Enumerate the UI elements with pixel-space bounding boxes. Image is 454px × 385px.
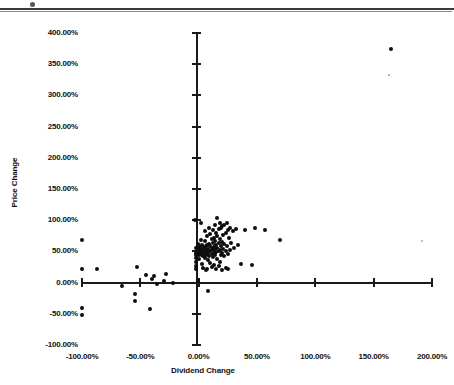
y-tick [192,344,201,346]
x-tick [256,278,258,287]
y-tick-label: 100.00% [48,215,78,224]
x-axis-left-cap [81,278,83,287]
x-axis-title: Dividend Change [0,366,454,375]
scatter-point [226,252,230,256]
x-tick [314,278,316,287]
y-tick [192,94,201,96]
x-tick-label: 50.00% [244,352,270,361]
scatter-point [196,279,200,283]
scatter-point [236,243,240,247]
scatter-point [227,236,231,240]
scatter-point [193,218,197,222]
y-tick [192,126,201,128]
scatter-point [215,216,219,220]
scatter-point [218,260,222,264]
scatter-point [135,265,139,269]
scatter-point [253,226,257,230]
scatter-point [133,292,137,296]
scatter-point [226,267,230,271]
x-tick [139,278,141,287]
scatter-point [144,273,148,277]
x-tick-label: -50.00% [126,352,154,361]
y-tick-label: 50.00% [52,246,78,255]
scatter-point [80,238,84,242]
scatter-point [164,272,168,276]
y-tick [192,313,201,315]
scatter-point [243,228,247,232]
x-tick-label: 150.00% [359,352,389,361]
y-axis-title: Price Change [10,143,19,223]
x-tick-label: 100.00% [300,352,330,361]
y-tick [192,157,201,159]
scatter-point [250,263,254,267]
scatter-point [95,267,99,271]
scatter-point [133,299,137,303]
y-tick-label: -100.00% [45,340,78,349]
scatter-point [225,221,229,225]
x-tick-label: -100.00% [66,352,99,361]
y-tick-label: 300.00% [48,90,78,99]
scatter-point [162,279,166,283]
y-tick-label: 350.00% [48,59,78,68]
scatter-point [263,228,267,232]
scatter-point [229,241,233,245]
y-tick-label: 400.00% [48,28,78,37]
scatter-point [197,257,201,261]
y-tick-label: 0.00% [56,278,78,287]
scatter-point [199,221,203,225]
scatter-point [120,284,124,288]
y-tick-label: -50.00% [50,309,78,318]
y-tick-label: 250.00% [48,122,78,131]
scatter-plot-figure: 400.00%350.00%300.00%250.00%200.00%150.0… [0,0,454,385]
scatter-point [205,267,209,271]
scatter-point [80,313,84,317]
scatter-point [232,246,236,250]
scatter-point [234,227,238,231]
scatter-point [171,281,175,285]
scatter-point [239,262,243,266]
y-tick-label: 150.00% [48,184,78,193]
scatter-point [206,289,210,293]
scatter-point [155,282,159,286]
y-tick [192,63,201,65]
scatter-point [80,306,84,310]
y-tick-label: 200.00% [48,153,78,162]
scatter-point [389,47,393,51]
scatter-point [278,238,282,242]
scatter-point [148,307,152,311]
x-axis-right-cap [431,278,433,287]
scatter-point [194,267,198,271]
y-tick [192,32,201,34]
scatter-point [152,274,156,278]
x-tick-label: 200.00% [417,352,447,361]
x-tick [373,278,375,287]
y-tick [192,188,201,190]
x-axis-title-text: Dividend Change [171,366,235,375]
x-tick-label: 0.00% [188,352,210,361]
scatter-point [80,267,84,271]
